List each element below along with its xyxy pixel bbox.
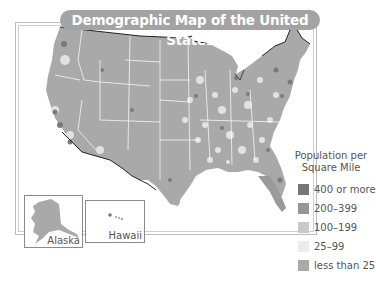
hawaii-label: Hawaii xyxy=(108,230,142,241)
legend-label: 200–399 xyxy=(314,203,357,214)
alaska-label: Alaska xyxy=(47,235,80,246)
legend-swatch xyxy=(298,203,309,214)
legend-label: less than 25 xyxy=(314,260,375,271)
legend-item: 25–99 xyxy=(298,240,344,252)
alaska-inset: Alaska xyxy=(24,195,83,248)
legend-swatch xyxy=(298,222,309,233)
legend-item: 400 or more xyxy=(298,183,376,195)
legend: Population per Square Mile 400 or more 2… xyxy=(292,150,370,174)
legend-item: less than 25 xyxy=(298,259,375,271)
legend-title-line1: Population per xyxy=(292,150,370,162)
legend-swatch xyxy=(298,184,309,195)
legend-swatch xyxy=(298,260,309,271)
legend-label: 400 or more xyxy=(314,184,376,195)
legend-label: 100–199 xyxy=(314,222,357,233)
legend-item: 100–199 xyxy=(298,221,357,233)
legend-item: 200–399 xyxy=(298,202,357,214)
legend-title-line2: Square Mile xyxy=(292,162,370,174)
map-title: Demographic Map of the United States xyxy=(60,10,320,30)
hawaii-inset: Hawaii xyxy=(85,200,145,243)
legend-label: 25–99 xyxy=(314,241,344,252)
legend-swatch xyxy=(298,241,309,252)
